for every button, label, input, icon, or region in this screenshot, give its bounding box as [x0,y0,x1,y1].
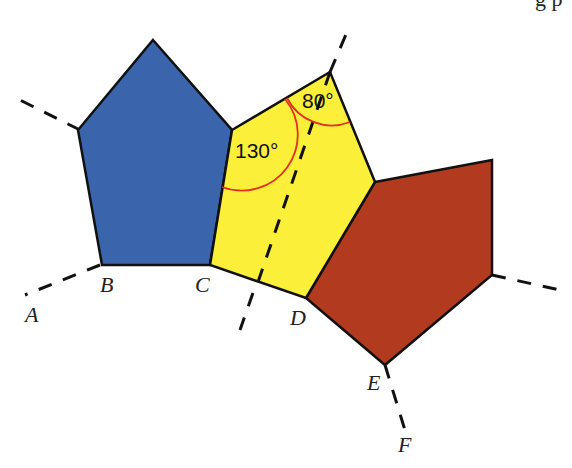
dash-red-right [492,275,560,290]
dash-top [330,25,350,72]
label-a: A [23,302,39,327]
dash-blue-left [20,100,80,130]
label-d: D [289,305,306,330]
label-f: F [397,432,412,457]
angle-label-130: 130° [235,139,278,162]
label-e: E [366,370,381,395]
angle-label-80: 80° [302,89,334,112]
diagram-canvas: g p 130° 80° A B C D E F [0,0,572,468]
heading-fragment: g p [535,0,563,11]
dash-line-ab [25,265,100,295]
blue-pentagon [78,40,232,265]
dash-line-ef [385,365,408,440]
pentagon-diagram: g p 130° 80° A B C D E F [0,0,572,468]
label-b: B [100,272,113,297]
label-c: C [195,272,210,297]
